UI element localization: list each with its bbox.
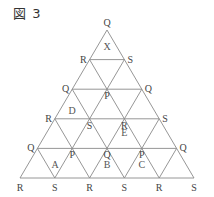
- vertex-label-p: P: [104, 90, 110, 101]
- vertex-label-s: S: [127, 54, 133, 65]
- region-label-b: B: [104, 159, 111, 170]
- vertex-label-r: R: [156, 182, 163, 193]
- vertex-label-s: S: [87, 120, 93, 131]
- vertex-label-q: Q: [62, 83, 70, 94]
- region-label-a: A: [51, 159, 59, 170]
- region-label-e: E: [121, 127, 127, 138]
- diagonal-line-right: [107, 30, 194, 178]
- diagonal-line-left: [159, 148, 176, 178]
- diagonal-line-right: [72, 89, 124, 178]
- vertex-label-q: Q: [145, 83, 153, 94]
- vertex-label-s: S: [122, 182, 128, 193]
- vertex-label-r: R: [45, 113, 52, 124]
- vertex-label-s: S: [52, 182, 58, 193]
- vertex-label-r: R: [17, 182, 24, 193]
- vertex-label-q: Q: [180, 142, 188, 153]
- region-label-x: X: [103, 41, 111, 52]
- vertex-label-q: Q: [103, 17, 111, 28]
- vertex-label-q: Q: [27, 142, 35, 153]
- vertex-label-p: P: [69, 149, 75, 160]
- vertex-label-s: S: [162, 113, 168, 124]
- diagonal-line-left: [20, 30, 107, 178]
- vertex-label-s: S: [191, 182, 197, 193]
- region-label-c: C: [138, 159, 145, 170]
- diagonal-line-left: [90, 89, 142, 178]
- region-label-d: D: [68, 105, 75, 116]
- triangle-grid-diagram: QRSQPQRSRSQPQPQRSRSRS XDEABC: [0, 0, 214, 197]
- vertex-label-r: R: [86, 182, 93, 193]
- vertex-label-r: R: [80, 54, 87, 65]
